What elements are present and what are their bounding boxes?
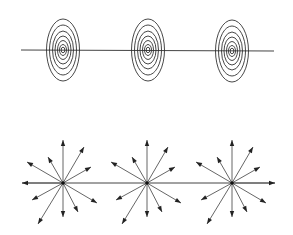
source-dot <box>61 181 65 185</box>
source-dot <box>145 181 149 185</box>
wave-diagram <box>0 0 293 235</box>
source-dot <box>230 181 234 185</box>
background <box>0 0 293 235</box>
